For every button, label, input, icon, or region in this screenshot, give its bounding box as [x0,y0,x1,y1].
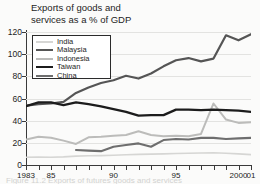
y-tick-label: 40 [0,116,22,126]
x-tick-mark [64,166,65,170]
y-tick-label: 0 [0,160,22,170]
legend-label: China [57,72,77,80]
x-tick-mark [89,166,90,170]
legend-swatch-icon [36,75,53,77]
chart-title: Exports of goods and services as a % of … [31,2,211,25]
chart-legend: IndiaMalaysiaIndonesiaTaiwanChina [32,35,111,79]
x-tick-mark [151,166,152,170]
y-tick-label: 20 [0,138,22,148]
x-tick-mark [239,166,240,170]
x-tick-mark [214,166,215,170]
series-line-india [26,153,251,157]
cropped-caption: Figure 11.2 Exports of futures goods and… [0,177,260,184]
series-line-taiwan [26,102,251,115]
x-tick-mark [39,166,40,170]
x-tick-mark [126,166,127,170]
legend-swatch-icon [36,41,53,43]
x-tick-mark [51,166,52,170]
legend-swatch-icon [36,49,53,51]
x-tick-mark [114,166,115,170]
legend-swatch-icon [36,58,53,60]
x-tick-mark [251,166,252,170]
legend-item-taiwan[interactable]: Taiwan [36,63,107,71]
x-tick-mark [201,166,202,170]
y-tick-label: 100 [0,49,22,59]
legend-swatch-icon [36,66,53,68]
x-tick-mark [189,166,190,170]
x-tick-mark [139,166,140,170]
y-tick-label: 60 [0,94,22,104]
chart-figure: Exports of goods and services as a % of … [0,0,260,184]
x-tick-mark [76,166,77,170]
x-tick-mark [164,166,165,170]
x-tick-mark [226,166,227,170]
x-tick-mark [101,166,102,170]
legend-label: Taiwan [57,63,80,71]
y-tick-label: 80 [0,71,22,81]
legend-item-china[interactable]: China [36,72,107,80]
caption-text: Figure 11.2 Exports of futures goods and… [0,177,260,184]
y-tick-label: 120 [0,27,22,37]
x-tick-mark [26,166,27,170]
x-tick-mark [176,166,177,170]
series-line-china [76,138,251,151]
